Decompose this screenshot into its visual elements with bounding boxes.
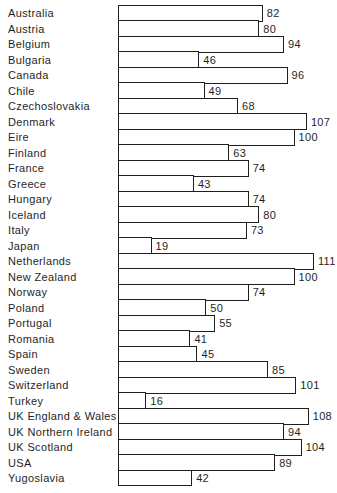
value-label: 108 (313, 408, 332, 425)
bar (118, 454, 275, 471)
category-label: Australia (8, 5, 54, 22)
category-label: Norway (8, 284, 47, 301)
bar (118, 129, 295, 146)
bar (118, 439, 302, 456)
value-label: 55 (219, 315, 232, 332)
value-label: 49 (209, 82, 222, 99)
category-label: Yugoslavia (8, 470, 65, 487)
category-label: New Zealand (8, 268, 77, 285)
category-label: UK Scotland (8, 439, 73, 456)
category-label: UK Northern Ireland (8, 423, 112, 440)
category-label: USA (8, 454, 32, 471)
bar (118, 67, 288, 84)
category-label: France (8, 160, 44, 177)
category-label: Denmark (8, 113, 55, 130)
value-label: 41 (194, 330, 207, 347)
category-label: Chile (8, 82, 35, 99)
category-label: Poland (8, 299, 44, 316)
bar (118, 144, 229, 161)
category-label: Eire (8, 129, 29, 146)
category-label: Finland (8, 144, 47, 161)
category-label: Spain (8, 346, 38, 363)
bar (118, 20, 259, 37)
category-label: Portugal (8, 315, 52, 332)
bar (118, 423, 284, 440)
category-label: Greece (8, 175, 46, 192)
value-label: 94 (288, 36, 301, 53)
bar (118, 330, 190, 347)
value-label: 80 (263, 20, 276, 37)
bar (118, 206, 259, 223)
bar (118, 392, 146, 409)
category-label: Sweden (8, 361, 50, 378)
value-label: 85 (272, 361, 285, 378)
value-label: 16 (150, 392, 163, 409)
bar (118, 408, 309, 425)
value-label: 101 (300, 377, 319, 394)
value-label: 43 (198, 175, 211, 192)
bar (118, 315, 215, 332)
value-label: 42 (196, 470, 209, 487)
value-label: 50 (210, 299, 223, 316)
bar (118, 284, 249, 301)
value-label: 100 (299, 129, 318, 146)
value-label: 100 (299, 268, 318, 285)
value-label: 68 (242, 98, 255, 115)
category-label: Canada (8, 67, 49, 84)
value-label: 82 (267, 5, 280, 22)
bar (118, 253, 314, 270)
bar (118, 98, 238, 115)
bar (118, 346, 197, 363)
category-label: Belgium (8, 36, 50, 53)
horizontal-bar-chart: Australia82Austria80Belgium94Bulgaria46C… (0, 0, 337, 493)
category-label: Iceland (8, 206, 46, 223)
value-label: 74 (253, 191, 266, 208)
category-label: Italy (8, 222, 30, 239)
category-label: Romania (8, 330, 54, 347)
category-label: UK England & Wales (8, 408, 117, 425)
value-label: 46 (203, 51, 216, 68)
value-label: 107 (311, 113, 330, 130)
value-label: 19 (156, 237, 169, 254)
bar (118, 222, 247, 239)
bar (118, 160, 249, 177)
value-label: 45 (201, 346, 214, 363)
bar (118, 82, 205, 99)
bar (118, 268, 295, 285)
category-label: Switzerland (8, 377, 69, 394)
value-label: 80 (263, 206, 276, 223)
value-label: 73 (251, 222, 264, 239)
bar (118, 377, 296, 394)
category-label: Netherlands (8, 253, 71, 270)
value-label: 94 (288, 423, 301, 440)
value-label: 96 (292, 67, 305, 84)
bar (118, 175, 194, 192)
category-label: Austria (8, 20, 45, 37)
value-label: 74 (253, 284, 266, 301)
category-label: Bulgaria (8, 51, 51, 68)
bar (118, 470, 192, 487)
bar (118, 299, 206, 316)
value-label: 89 (279, 454, 292, 471)
bar (118, 237, 152, 254)
value-label: 104 (306, 439, 325, 456)
bar (118, 5, 263, 22)
category-label: Turkey (8, 392, 43, 409)
category-label: Japan (8, 237, 40, 254)
value-label: 111 (318, 253, 336, 270)
category-label: Czechoslovakia (8, 98, 90, 115)
value-label: 74 (253, 160, 266, 177)
bar (118, 51, 199, 68)
bar (118, 361, 268, 378)
value-label: 63 (233, 144, 246, 161)
bar (118, 36, 284, 53)
category-label: Hungary (8, 191, 52, 208)
bar (118, 191, 249, 208)
bar (118, 113, 307, 130)
